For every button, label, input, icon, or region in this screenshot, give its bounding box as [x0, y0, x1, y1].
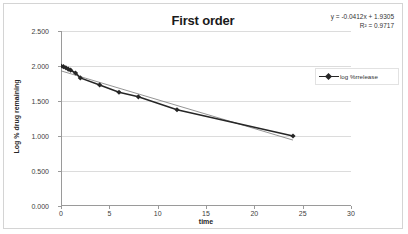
x-axis-tick-label: 30: [336, 210, 366, 217]
y-axis-tick-label: 0.000: [8, 203, 54, 210]
x-axis-tick-mark: [158, 206, 159, 209]
trendline: [61, 71, 293, 140]
trendline-rsquared-text: R² = 0.9717: [331, 21, 394, 30]
x-axis-tick-label: 0: [46, 210, 76, 217]
data-point-marker: [174, 107, 179, 112]
y-axis-tick-label: 1.000: [8, 133, 54, 140]
series-line: [61, 66, 293, 136]
data-series-layer: [61, 31, 351, 206]
y-axis-tick-label: 2.500: [8, 28, 54, 35]
x-axis-tick-mark: [254, 206, 255, 209]
trendline-equation-annotation: y = -0.0412x + 1.9305 R² = 0.9717: [331, 12, 394, 31]
x-axis-tick-label: 20: [239, 210, 269, 217]
plot-area: [61, 31, 351, 206]
x-axis-tick-mark: [61, 206, 62, 209]
x-axis-tick-mark: [206, 206, 207, 209]
x-axis-tick-label: 25: [288, 210, 318, 217]
data-point-marker: [136, 94, 141, 99]
x-axis-tick-label: 15: [191, 210, 221, 217]
x-axis-tick-mark: [303, 206, 304, 209]
y-axis-tick-label: 2.000: [8, 63, 54, 70]
x-axis-tick-label: 10: [143, 210, 173, 217]
x-axis-tick-label: 5: [94, 210, 124, 217]
y-axis-tick-label: 0.500: [8, 168, 54, 175]
y-axis-title-text: Log % drug remaining: [14, 79, 21, 153]
trendline-equation-text: y = -0.0412x + 1.9305: [331, 12, 394, 21]
data-point-marker: [116, 90, 121, 95]
x-axis-tick-mark: [351, 206, 352, 209]
x-axis-title: time: [61, 218, 351, 225]
chart-container: First order y = -0.0412x + 1.9305 R² = 0…: [3, 3, 403, 229]
data-point-marker: [290, 133, 295, 138]
y-axis-title: Log % drug remaining: [11, 56, 23, 176]
y-axis-tick-label: 1.500: [8, 98, 54, 105]
x-axis-tick-mark: [109, 206, 110, 209]
